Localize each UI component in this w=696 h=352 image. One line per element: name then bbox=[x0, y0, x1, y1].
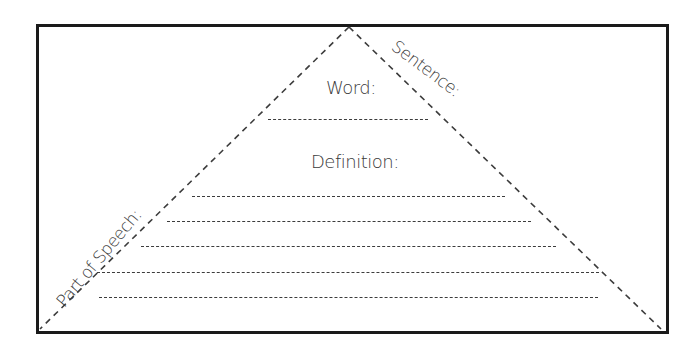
definition-write-line-1[interactable] bbox=[192, 196, 505, 197]
definition-write-line-5[interactable] bbox=[99, 297, 598, 298]
definition-write-line-2[interactable] bbox=[167, 221, 531, 222]
triangle-fold-lines bbox=[0, 0, 696, 352]
definition-write-line-4[interactable] bbox=[97, 272, 599, 273]
word-write-line[interactable] bbox=[268, 119, 428, 120]
definition-write-line-3[interactable] bbox=[141, 246, 556, 247]
word-label: Word: bbox=[326, 77, 376, 98]
definition-label: Definition: bbox=[311, 151, 399, 172]
right-fold-line bbox=[349, 27, 661, 329]
